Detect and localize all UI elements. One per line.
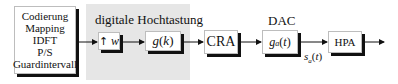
signal-arrows (0, 0, 398, 84)
